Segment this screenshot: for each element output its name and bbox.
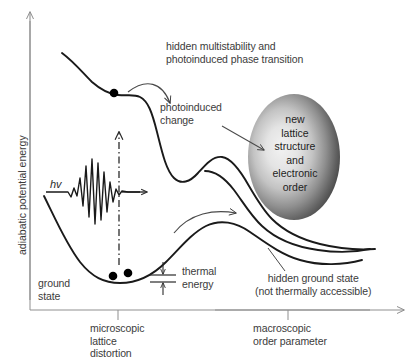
annotation-hidden-ground-state: hidden ground state (not thermally acces…: [255, 272, 371, 297]
ground-state-dot-2: [124, 269, 133, 278]
potential-energy-diagram: adiabatic potential energy hidden multis…: [0, 0, 420, 359]
annotation-hidden-multistability: hidden multistability and photoinduced p…: [166, 40, 303, 65]
hidden-ground-state-leader: [268, 248, 285, 271]
ground-state-dot-1: [109, 272, 118, 281]
thermal-energy-indicator: [150, 262, 176, 295]
state-population-dots: [109, 89, 133, 281]
x-axis-label-microscopic: microscopic lattice distortion: [90, 322, 144, 359]
laser-pulse-wavepacket: [46, 159, 147, 224]
ellipse-label-new-phase: new lattice structure and electronic ord…: [254, 113, 336, 194]
x-axis-label-macroscopic: macroscopic order parameter: [253, 322, 327, 347]
photon-energy-label: hv: [50, 178, 62, 190]
annotation-ground-state: ground state: [38, 277, 70, 302]
excited-state-dot: [110, 89, 119, 98]
annotation-thermal-energy: thermal energy: [182, 265, 216, 290]
x-axis-ticks: [118, 310, 288, 320]
annotation-photoinduced-change: photoinduced change: [160, 101, 222, 126]
y-axis-label: adiabatic potential energy: [16, 135, 28, 255]
